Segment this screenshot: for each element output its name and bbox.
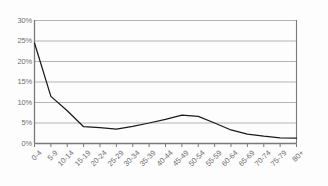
x-tick-label: 45-49 [171,149,190,168]
x-tick-label: 65-69 [237,149,256,168]
x-tick-label: 15-19 [73,149,92,168]
x-tick-label: 35-39 [139,149,158,168]
x-tick-label: 75-79 [270,149,289,168]
x-tick-label: 10-14 [57,149,76,168]
x-axis-labels: 0-45-910-1415-1920-2425-2930-3435-3940-4… [0,0,328,186]
x-tick-label: 40-44 [155,149,174,168]
x-tick-label: 50-54 [188,149,207,168]
x-tick-label: 25-29 [106,149,125,168]
x-tick-label: 60-64 [221,149,240,168]
x-tick-label: 55-59 [204,149,223,168]
line-chart: 0%5%10%15%20%25%30% 0-45-910-1415-1920-2… [0,0,328,186]
x-tick-label: 30-34 [122,149,141,168]
x-tick-label: 70-74 [253,149,272,168]
x-tick-label: 20-24 [90,149,109,168]
x-tick-label: 80+ [291,149,305,163]
x-tick-label: 0-4 [30,149,43,162]
